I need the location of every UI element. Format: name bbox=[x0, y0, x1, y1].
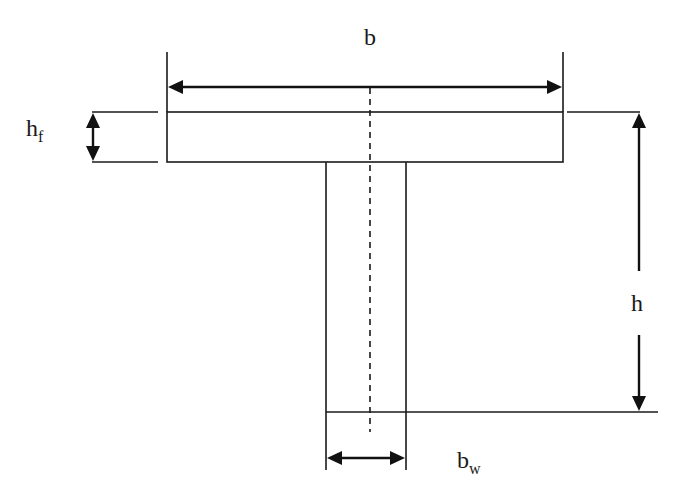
t-beam-diagram: b hf h bw bbox=[0, 0, 676, 497]
bw-arrowhead-right bbox=[390, 451, 405, 465]
h-label: h bbox=[631, 290, 643, 316]
hf-label: hf bbox=[26, 115, 44, 145]
hf-arrowhead-top bbox=[86, 113, 100, 128]
b-arrowhead-left bbox=[168, 80, 183, 94]
bw-label: bw bbox=[457, 447, 481, 477]
b-label: b bbox=[364, 24, 376, 50]
b-arrowhead-right bbox=[547, 80, 562, 94]
bw-arrowhead-left bbox=[327, 451, 342, 465]
hf-arrowhead-bottom bbox=[86, 146, 100, 161]
flange bbox=[167, 112, 563, 162]
h-arrowhead-bottom bbox=[632, 396, 646, 411]
h-arrowhead-top bbox=[632, 113, 646, 128]
